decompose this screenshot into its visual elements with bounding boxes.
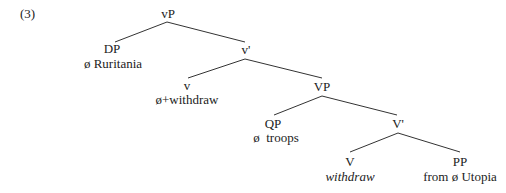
node-v: v [184,79,191,93]
node-DP: DP [104,42,121,56]
node-V-content: withdraw [325,170,374,184]
branch-vbar-v [188,59,245,78]
node-VP: VP [314,80,331,94]
node-V-bar: V' [392,117,404,131]
node-DP-content: ø Ruritania [84,57,142,71]
node-v-bar: v' [242,43,251,57]
node-QP-content: ø troops [253,131,299,145]
branch-VP-Vbar [322,96,397,115]
node-v-content: ø+withdraw [156,93,219,107]
node-QP: QP [265,117,282,131]
branch-Vbar-V [350,133,398,152]
node-V: V [345,155,354,169]
tree-branches [0,0,506,193]
branch-vP-DP [115,22,167,42]
node-PP-content: from ø Utopia [423,170,497,184]
branch-vP-vbar [167,22,245,42]
branch-Vbar-PP [398,133,460,152]
branch-vbar-VP [245,59,322,78]
node-vP: vP [161,7,175,21]
example-number: (3) [20,7,35,21]
branch-VP-QP [274,96,322,115]
node-PP: PP [453,155,467,169]
